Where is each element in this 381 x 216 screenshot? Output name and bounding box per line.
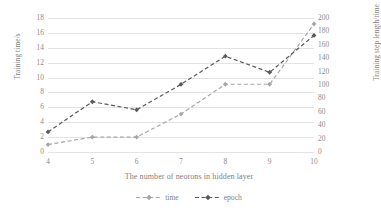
x-axis-tick-label: 4 [38, 157, 58, 166]
legend-item-epoch[interactable]: epoch [195, 193, 242, 202]
legend-label: time [165, 193, 179, 202]
gridline [48, 152, 314, 153]
y-axis-left-tick-label: 16 [22, 28, 44, 37]
y-axis-left-tick-label: 14 [22, 43, 44, 52]
legend-item-time[interactable]: time [136, 193, 179, 202]
x-axis-tick-label: 9 [260, 157, 280, 166]
x-axis-tick-label: 10 [304, 157, 324, 166]
x-axis-tick-label: 5 [82, 157, 102, 166]
y-axis-left-tick-label: 18 [22, 13, 44, 22]
y-axis-right-tick-label: 0 [318, 147, 344, 156]
data-point-time [134, 135, 139, 140]
legend-marker-icon [136, 193, 162, 202]
plot-area [48, 18, 314, 152]
x-axis-tick-label: 7 [171, 157, 191, 166]
series-layer [48, 18, 314, 152]
legend-label: epoch [224, 193, 242, 202]
y-axis-right-tick-label: 140 [318, 53, 344, 62]
y-axis-left-tick-label: 6 [22, 102, 44, 111]
data-point-epoch [134, 107, 139, 112]
data-point-time [46, 142, 51, 147]
y-axis-left-title: Training time/s [13, 9, 22, 105]
y-axis-right-tick-label: 100 [318, 80, 344, 89]
y-axis-right-tick-label: 160 [318, 40, 344, 49]
x-axis-tick-label: 6 [127, 157, 147, 166]
y-axis-left-tick-label: 0 [22, 147, 44, 156]
data-point-time [90, 135, 95, 140]
y-axis-right-tick-label: 120 [318, 67, 344, 76]
y-axis-right-tick-label: 200 [318, 13, 344, 22]
y-axis-left-tick-label: 2 [22, 132, 44, 141]
y-axis-right-tick-label: 80 [318, 93, 344, 102]
y-axis-right-tick-label: 180 [318, 26, 344, 35]
y-axis-right-tick-label: 40 [318, 120, 344, 129]
y-axis-right-tick-label: 60 [318, 107, 344, 116]
y-axis-left-tick-label: 4 [22, 117, 44, 126]
series-epoch [46, 33, 317, 134]
x-axis-tick-label: 8 [215, 157, 235, 166]
legend-marker-icon [195, 193, 221, 202]
data-point-time [312, 22, 317, 27]
y-axis-left-tick-label: 10 [22, 73, 44, 82]
y-axis-left-tick-label: 8 [22, 87, 44, 96]
y-axis-right-tick-label: 20 [318, 134, 344, 143]
data-point-time [223, 82, 228, 87]
data-point-epoch [90, 99, 95, 104]
chart-legend: timeepoch [0, 193, 378, 202]
x-axis-title: The number of neorons in hidden layer [0, 172, 378, 181]
y-axis-left-tick-label: 12 [22, 58, 44, 67]
y-axis-right-title: Training step length/time [372, 0, 381, 103]
